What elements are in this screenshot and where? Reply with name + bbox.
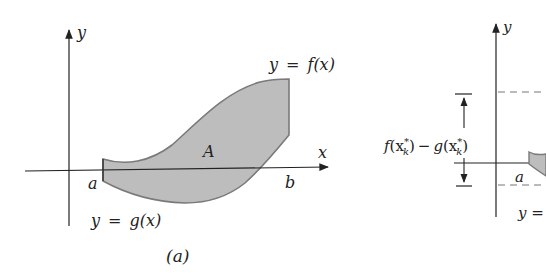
panel-a: y x y = f(x) A a b y = g(x) (a) (25, 23, 335, 266)
x-axis-label: x (318, 143, 327, 162)
partial-curve-label-b: y = (517, 204, 544, 222)
bound-a-label-b: a (515, 168, 524, 186)
y-axis-label-b: y (502, 18, 512, 36)
panel-a-caption: (a) (166, 246, 189, 266)
region-b-sliver (529, 152, 546, 176)
figure-canvas: y x y = f(x) A a b y = g(x) (a) (0, 0, 546, 278)
region-a-shaded (103, 79, 289, 203)
height-difference-label: f(x*k)−g(x*k) (383, 136, 468, 157)
region-label-A: A (201, 142, 215, 161)
bound-a-label: a (88, 174, 98, 193)
panel-b: y f(x*k)−g(x*k) a y = (383, 18, 546, 222)
bound-b-label: b (285, 173, 295, 192)
g-curve-label: y = g(x) (90, 211, 161, 230)
f-curve-label: y = f(x) (268, 55, 335, 74)
y-axis-label: y (76, 23, 87, 42)
